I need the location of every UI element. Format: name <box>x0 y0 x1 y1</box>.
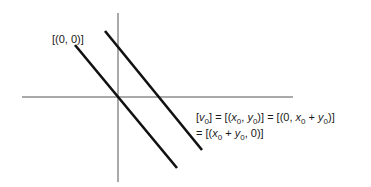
line-through-origin <box>75 45 177 168</box>
plus: + <box>306 111 319 123</box>
eq-part-2: )] = [(0, <box>257 111 295 123</box>
eq-part-1: ] = [( <box>209 111 231 123</box>
eq2-end: , 0)] <box>245 127 264 139</box>
origin-label: [(0, 0)] <box>52 33 84 45</box>
equation-line-2: = [(x0 + y0, 0)] <box>196 127 264 144</box>
equation-line-1: [v0] = [(x0, y0)] = [(0, x0 + y0)] <box>196 111 335 128</box>
diagram-canvas <box>0 0 371 187</box>
parallel-line <box>105 31 202 150</box>
eq2-plus: + <box>222 127 235 139</box>
eq2-start: = [( <box>196 127 212 139</box>
eq-end: )] <box>328 111 335 123</box>
